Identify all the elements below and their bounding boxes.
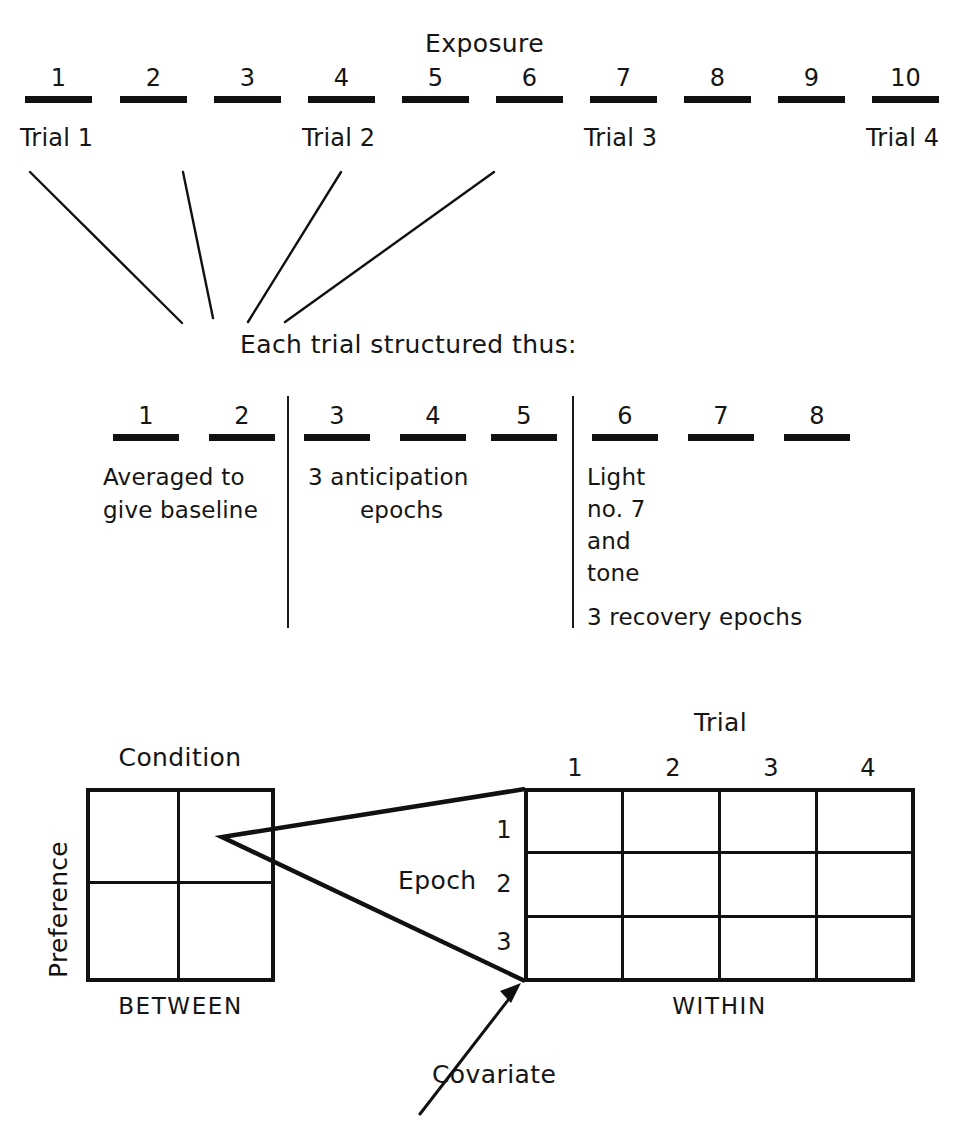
exposure-trial-label: Trial 4 [866,126,939,150]
exposure-epoch-number: 7 [590,66,657,90]
within-column-label: 2 [643,756,703,780]
within-grid-right [911,788,915,982]
exposure-epoch-number: 6 [496,66,563,90]
exposure-epoch-mark [120,96,187,103]
between-box-right [271,788,275,982]
between-box-left [86,788,90,982]
exposure-epoch-mark [402,96,469,103]
figure-canvas: Exposure 1 2 3 4 5 6 7 8 9 10 Trial 1 Tr… [0,0,969,1141]
structure-epoch-number: 2 [209,404,275,428]
between-box-top [86,788,275,792]
exposure-epoch-mark [25,96,92,103]
structure-epoch-mark [304,434,370,441]
structure-epoch-number: 8 [784,404,850,428]
stimulus-group-line: and [587,530,631,553]
structure-epoch-mark [592,434,658,441]
trial-leader-line-3 [248,172,341,322]
between-box-hdivider [86,881,275,884]
trial-structure-caption: Each trial structured thus: [240,332,577,357]
anticipation-group-line: 3 anticipation [308,466,469,489]
exposure-title: Exposure [0,31,969,56]
exposure-epoch-number: 9 [778,66,845,90]
exposure-trial-label: Trial 3 [584,126,657,150]
exposure-epoch-mark [214,96,281,103]
within-column-label: 3 [741,756,801,780]
diagram-line-overlay [0,0,969,1141]
within-row-label: 3 [492,930,516,954]
within-grid-vdivider [621,788,624,982]
exposure-epoch-number: 8 [684,66,751,90]
stimulus-group-line: tone [587,562,640,585]
structure-group-divider [287,396,289,628]
structure-epoch-number: 3 [304,404,370,428]
exposure-epoch-number: 10 [872,66,939,90]
trial-leader-line-4 [285,172,494,322]
structure-epoch-number: 1 [113,404,179,428]
expansion-v-lines [222,789,525,981]
trial-factor-label: Trial [526,710,915,735]
between-box-bottom [86,978,275,982]
within-row-label: 2 [492,872,516,896]
within-grid-vdivider [815,788,818,982]
covariate-arrow-shaft [420,995,512,1114]
within-grid-vdivider [718,788,721,982]
preference-factor-label: Preference [44,841,73,978]
structure-epoch-mark [113,434,179,441]
trial-leader-line-2 [183,172,213,318]
within-grid-hdivider [524,851,915,854]
covariate-arrow-head [500,983,521,1003]
structure-epoch-mark [491,434,557,441]
within-grid-hdivider [524,915,915,918]
within-column-label: 1 [545,756,605,780]
exposure-epoch-number: 5 [402,66,469,90]
exposure-epoch-mark [496,96,563,103]
structure-epoch-mark [400,434,466,441]
between-box-vdivider [177,788,180,982]
structure-epoch-mark [209,434,275,441]
structure-epoch-number: 7 [688,404,754,428]
structure-group-divider [572,396,574,628]
exposure-epoch-mark [778,96,845,103]
exposure-trial-label: Trial 1 [20,126,93,150]
stimulus-group-line: Light [587,466,645,489]
exposure-epoch-mark [590,96,657,103]
covariate-label: Covariate [432,1062,556,1087]
structure-epoch-number: 5 [491,404,557,428]
structure-epoch-mark [688,434,754,441]
recovery-epochs-line: 3 recovery epochs [587,606,802,629]
exposure-epoch-mark [872,96,939,103]
trial-leader-line-1 [30,172,182,323]
exposure-epoch-number: 2 [120,66,187,90]
exposure-trial-label: Trial 2 [302,126,375,150]
within-column-label: 4 [838,756,898,780]
epoch-factor-label: Epoch [398,868,477,893]
structure-epoch-number: 4 [400,404,466,428]
exposure-epoch-number: 1 [25,66,92,90]
baseline-group-line: Averaged to [103,466,245,489]
within-grid-left [524,788,528,982]
within-caption: WITHIN [524,995,915,1018]
anticipation-group-line: epochs [360,499,443,522]
between-caption: BETWEEN [86,995,275,1018]
within-row-label: 1 [492,818,516,842]
exposure-epoch-mark [684,96,751,103]
structure-epoch-number: 6 [592,404,658,428]
structure-epoch-mark [784,434,850,441]
exposure-epoch-mark [308,96,375,103]
exposure-epoch-number: 3 [214,66,281,90]
exposure-epoch-number: 4 [308,66,375,90]
baseline-group-line: give baseline [103,499,258,522]
stimulus-group-line: no. 7 [587,498,646,521]
condition-factor-label: Condition [86,745,274,770]
